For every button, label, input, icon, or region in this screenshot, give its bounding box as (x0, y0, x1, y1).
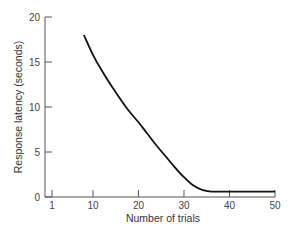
x-tick-label: 40 (224, 200, 236, 211)
x-ticks: 11020304050 (49, 190, 281, 211)
x-axis-label: Number of trials (126, 212, 200, 224)
y-tick-label: 0 (34, 192, 40, 203)
y-ticks: 05101520 (29, 12, 52, 203)
x-tick-label: 10 (87, 200, 99, 211)
x-tick-label: 50 (269, 200, 281, 211)
learning-curve-chart: 05101520 11020304050 Number of trials Re… (0, 0, 294, 238)
axes (45, 17, 275, 197)
y-tick-label: 10 (29, 102, 41, 113)
y-tick-label: 5 (34, 147, 40, 158)
y-tick-label: 20 (29, 12, 41, 23)
x-tick-label: 1 (49, 200, 55, 211)
x-tick-label: 30 (178, 200, 190, 211)
y-tick-label: 15 (29, 57, 41, 68)
data-line (84, 35, 275, 192)
x-tick-label: 20 (133, 200, 145, 211)
y-axis-label: Response latency (seconds) (12, 41, 24, 174)
